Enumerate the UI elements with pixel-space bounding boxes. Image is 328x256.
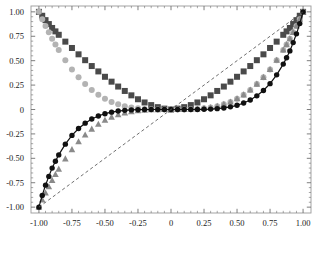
data-point-circle bbox=[43, 182, 48, 187]
data-point-circle bbox=[63, 141, 68, 146]
data-point-circle bbox=[188, 107, 193, 112]
data-point-circle bbox=[46, 174, 51, 179]
data-point-square bbox=[56, 32, 62, 38]
data-point-square bbox=[115, 84, 121, 90]
data-point-circle bbox=[36, 9, 42, 15]
data-point-circle bbox=[182, 107, 187, 112]
data-point-circle bbox=[96, 113, 101, 118]
data-point-square bbox=[221, 84, 227, 90]
data-point-circle bbox=[89, 87, 95, 93]
data-point-circle bbox=[95, 92, 101, 98]
data-point-circle bbox=[109, 109, 114, 114]
data-point-square bbox=[82, 57, 88, 63]
y-tick-label: 1.00 bbox=[0, 8, 24, 17]
data-point-circle bbox=[228, 104, 233, 109]
data-point-square bbox=[241, 68, 247, 74]
data-point-square bbox=[89, 63, 95, 69]
data-point-circle bbox=[46, 29, 52, 35]
reference-line bbox=[39, 12, 303, 207]
y-tick-label: 0.50 bbox=[0, 57, 24, 66]
data-point-circle bbox=[49, 36, 55, 42]
data-point-square bbox=[201, 96, 207, 102]
data-point-square bbox=[194, 99, 200, 105]
data-point-square bbox=[142, 99, 148, 105]
data-point-circle bbox=[175, 107, 180, 112]
data-point-square bbox=[254, 57, 260, 63]
data-point-square bbox=[135, 96, 141, 102]
data-point-square bbox=[76, 51, 82, 57]
y-tick-label: -1.00 bbox=[0, 203, 24, 212]
data-point-square bbox=[274, 39, 280, 45]
data-point-circle bbox=[215, 106, 220, 111]
data-point-circle bbox=[221, 105, 226, 110]
data-point-circle bbox=[56, 152, 61, 157]
y-tick-label: -0.75 bbox=[0, 179, 24, 188]
data-point-square bbox=[62, 39, 68, 45]
data-point-circle bbox=[69, 133, 74, 138]
data-point-circle bbox=[89, 116, 94, 121]
data-point-circle bbox=[208, 106, 213, 111]
data-point-square bbox=[122, 88, 128, 94]
data-point-triangle bbox=[88, 126, 95, 132]
y-tick-label: 0.25 bbox=[0, 81, 24, 90]
data-point-square bbox=[234, 74, 240, 80]
data-point-circle bbox=[234, 103, 239, 108]
data-point-circle bbox=[142, 107, 147, 112]
data-point-square bbox=[109, 79, 115, 85]
data-point-square bbox=[260, 51, 266, 57]
data-point-circle bbox=[135, 107, 140, 112]
data-point-circle bbox=[201, 107, 206, 112]
data-point-triangle bbox=[102, 117, 109, 123]
data-point-circle bbox=[52, 42, 58, 48]
data-point-circle bbox=[49, 165, 54, 170]
data-point-circle bbox=[102, 111, 107, 116]
data-point-circle bbox=[281, 61, 286, 66]
y-tick-label: 0.75 bbox=[0, 32, 24, 41]
data-point-circle bbox=[284, 55, 289, 60]
data-point-square bbox=[102, 74, 108, 80]
data-point-circle bbox=[82, 120, 87, 125]
data-point-triangle bbox=[95, 121, 102, 127]
data-point-circle bbox=[290, 40, 295, 45]
data-point-square bbox=[214, 88, 220, 94]
data-point-circle bbox=[248, 97, 253, 102]
data-point-triangle bbox=[82, 131, 89, 137]
chart-plot bbox=[0, 0, 328, 256]
data-point-circle bbox=[76, 126, 81, 131]
data-point-circle bbox=[43, 23, 49, 29]
data-point-circle bbox=[102, 96, 108, 102]
data-point-circle bbox=[39, 16, 45, 22]
data-point-circle bbox=[129, 107, 134, 112]
data-point-circle bbox=[76, 74, 82, 80]
y-tick-label: -0.25 bbox=[0, 130, 24, 139]
data-point-circle bbox=[195, 107, 200, 112]
data-point-circle bbox=[155, 107, 160, 112]
data-point-circle bbox=[115, 101, 121, 107]
data-point-square bbox=[227, 79, 233, 85]
data-point-triangle bbox=[75, 138, 82, 144]
data-point-circle bbox=[62, 57, 68, 63]
data-point-square bbox=[267, 45, 273, 51]
data-point-circle bbox=[148, 107, 153, 112]
data-point-circle bbox=[294, 31, 299, 36]
data-point-circle bbox=[261, 88, 266, 93]
data-point-triangle bbox=[69, 146, 76, 152]
data-point-circle bbox=[287, 48, 292, 53]
data-point-circle bbox=[115, 108, 120, 113]
data-point-circle bbox=[53, 159, 58, 164]
y-tick-label: 0 bbox=[0, 106, 24, 115]
y-tick-label: -0.50 bbox=[0, 154, 24, 163]
data-point-circle bbox=[274, 72, 279, 77]
data-point-triangle bbox=[55, 166, 62, 172]
data-point-circle bbox=[297, 21, 302, 26]
data-point-square bbox=[69, 45, 75, 51]
data-point-circle bbox=[122, 108, 127, 113]
data-point-square bbox=[128, 92, 134, 98]
data-point-circle bbox=[267, 81, 272, 86]
x-tick-label: 1.00 bbox=[283, 219, 323, 228]
data-point-square bbox=[208, 92, 214, 98]
data-point-square bbox=[247, 63, 253, 69]
figure-caption bbox=[150, 240, 328, 252]
figure: -1.00-0.75-0.50-0.2500.250.500.751.00-1.… bbox=[0, 0, 328, 256]
data-point-circle bbox=[82, 81, 88, 87]
